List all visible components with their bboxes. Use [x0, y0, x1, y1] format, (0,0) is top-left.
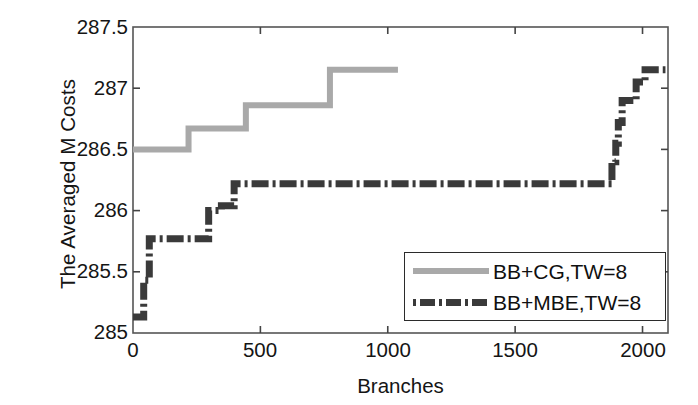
x-tick-label: 1000 — [328, 340, 448, 361]
x-tick-label: 500 — [200, 340, 320, 361]
chart-figure: The Averaged M Costs Branches 287.5 287 … — [0, 0, 698, 405]
legend: BB+CG,TW=8 BB+MBE,TW=8 — [404, 252, 666, 321]
x-tick-label: 2000 — [583, 340, 698, 361]
legend-label-bb-cg: BB+CG,TW=8 — [493, 261, 627, 282]
legend-swatch-bb-cg — [413, 264, 489, 278]
x-tick-label: 0 — [73, 340, 193, 361]
x-tick-labels: 0 500 1000 1500 2000 — [0, 0, 698, 405]
legend-entry-bb-mbe: BB+MBE,TW=8 — [405, 286, 667, 318]
legend-swatch-bb-mbe — [413, 295, 489, 309]
x-tick-label: 1500 — [455, 340, 575, 361]
legend-entry-bb-cg: BB+CG,TW=8 — [405, 255, 667, 287]
legend-label-bb-mbe: BB+MBE,TW=8 — [493, 292, 641, 313]
